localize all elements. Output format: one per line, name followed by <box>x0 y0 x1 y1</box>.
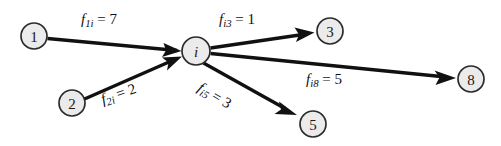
node-3[interactable]: 3 <box>317 18 343 44</box>
edge-label-fi3-equals: = <box>235 11 243 27</box>
node-3-label: 3 <box>326 24 334 40</box>
node-2[interactable]: 2 <box>59 90 85 116</box>
node-1-label: 1 <box>30 29 38 45</box>
edge-label-fi8-equals: = <box>322 71 330 87</box>
edge-i-to-3 <box>211 28 315 49</box>
node-i-label: i <box>194 44 198 60</box>
edge-label-f1i-subscript: 1i <box>85 17 93 29</box>
edge-label-f1i: f1i = 7 <box>81 12 117 27</box>
node-5-label: 5 <box>309 117 317 133</box>
edge-label-fi8-value: 5 <box>335 71 343 87</box>
node-8[interactable]: 8 <box>458 66 484 92</box>
edge-1-to-i-line <box>48 39 178 51</box>
edge-label-fi3-subscript: i3 <box>223 17 231 29</box>
edge-label-f2i-equals: = <box>114 84 127 102</box>
edge-label-fi3-value: 1 <box>248 11 256 27</box>
flow-network-diagram: 1 2 i 3 5 8 f1i = 7 f2i = 2 <box>0 0 501 146</box>
edge-label-fi3: fi3 = 1 <box>219 12 255 27</box>
edge-label-fi8-subscript: i8 <box>310 77 318 89</box>
node-1[interactable]: 1 <box>21 23 47 49</box>
node-2-label: 2 <box>68 96 76 112</box>
edge-label-f1i-equals: = <box>97 11 105 27</box>
edge-label-fi8: fi8 = 5 <box>306 72 342 87</box>
node-8-label: 8 <box>467 72 475 88</box>
node-i[interactable]: i <box>182 37 210 65</box>
edge-1-to-i <box>48 39 182 58</box>
edge-i-to-3-line <box>211 35 304 49</box>
node-5[interactable]: 5 <box>300 111 326 137</box>
edge-label-f1i-value: 7 <box>110 11 118 27</box>
